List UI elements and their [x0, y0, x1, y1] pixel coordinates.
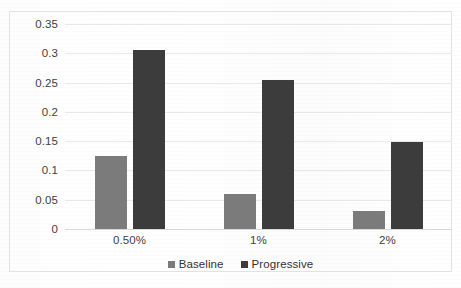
y-axis-tick-label: 0.35 — [35, 18, 58, 30]
legend-swatch-icon — [241, 261, 248, 268]
bar-progressive-2 — [391, 142, 423, 229]
legend-label: Baseline — [179, 258, 224, 270]
bar-baseline-2 — [353, 211, 385, 229]
bar-progressive-1 — [262, 80, 294, 229]
chart-root: 00.050.10.150.20.250.30.35 0.50%1%2% Bas… — [0, 0, 461, 288]
y-axis-tick-label: 0.05 — [35, 194, 58, 206]
gridline: 0.25 — [65, 83, 452, 84]
x-axis-labels: 0.50%1%2% — [65, 234, 452, 254]
gridline: 0.35 — [65, 24, 452, 25]
chart-plot-frame: 00.050.10.150.20.250.30.35 0.50%1%2% Bas… — [9, 11, 452, 272]
y-axis-tick-label: 0.2 — [42, 106, 58, 118]
gridline: 0.3 — [65, 53, 452, 54]
bar-baseline-1 — [224, 194, 256, 229]
bar-progressive-0 — [133, 50, 165, 229]
y-axis-tick-label: 0.15 — [35, 135, 58, 147]
chart-legend: BaselineProgressive — [10, 258, 461, 270]
y-axis-tick-label: 0.25 — [35, 77, 58, 89]
legend-label: Progressive — [252, 258, 314, 270]
legend-item-baseline[interactable]: Baseline — [168, 258, 224, 270]
legend-item-progressive[interactable]: Progressive — [241, 258, 314, 270]
x-axis-tick-label: 0.50% — [113, 234, 146, 246]
y-axis-tick-label: 0.3 — [42, 47, 58, 59]
plot-area: 00.050.10.150.20.250.30.35 — [65, 24, 452, 229]
bar-baseline-0 — [95, 156, 127, 229]
x-axis-tick-label: 2% — [379, 234, 396, 246]
axis-baseline: 0 — [65, 229, 452, 230]
x-axis-tick-label: 1% — [250, 234, 267, 246]
gridline: 0.2 — [65, 112, 452, 113]
y-axis-tick-label: 0.1 — [42, 164, 58, 176]
legend-swatch-icon — [168, 261, 175, 268]
y-axis-tick-label: 0 — [52, 223, 59, 235]
